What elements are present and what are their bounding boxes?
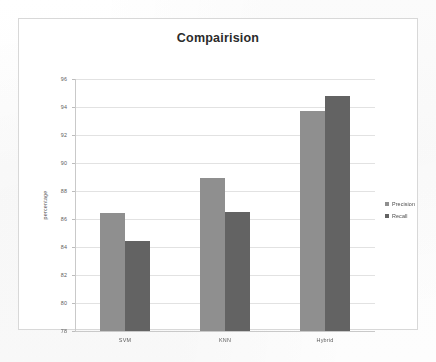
legend-swatch-icon (385, 214, 389, 218)
y-axis-line (75, 79, 76, 331)
y-axis-tick-label: 92 (41, 132, 67, 138)
y-axis-tick-label: 78 (41, 328, 67, 334)
y-axis-tick-label: 88 (41, 188, 67, 194)
y-axis-tick-label: 82 (41, 272, 67, 278)
y-axis-tick-mark (72, 247, 75, 248)
legend-swatch-icon (385, 202, 389, 206)
y-axis-tick-mark (72, 275, 75, 276)
legend-item-recall[interactable]: Recall (385, 213, 415, 219)
gridline (75, 79, 375, 80)
bar-svm-precision[interactable] (100, 213, 125, 331)
y-axis-tick-mark (72, 79, 75, 80)
y-axis-tick-mark (72, 163, 75, 164)
y-axis-tick-label: 96 (41, 76, 67, 82)
x-axis-tick-label: KNN (175, 337, 275, 343)
legend-item-precision[interactable]: Precision (385, 201, 415, 207)
y-axis-tick-label: 80 (41, 300, 67, 306)
x-axis-tick-label: SVM (75, 337, 175, 343)
y-axis-tick-label: 94 (41, 104, 67, 110)
y-axis-tick-mark (72, 107, 75, 108)
legend-label: Precision (392, 201, 415, 207)
bar-hybrid-precision[interactable] (300, 111, 325, 331)
chart-page: Compairision percentage PrecisionRecall … (0, 0, 436, 362)
y-axis-tick-mark (72, 331, 75, 332)
chart-title: Compairision (19, 31, 417, 45)
chart-legend: PrecisionRecall (385, 201, 415, 225)
bar-svm-recall[interactable] (125, 241, 150, 331)
x-axis-line (75, 331, 375, 332)
x-axis-tick-label: Hybrid (275, 337, 375, 343)
bar-hybrid-recall[interactable] (325, 96, 350, 331)
y-axis-tick-label: 86 (41, 216, 67, 222)
y-axis-tick-mark (72, 135, 75, 136)
bar-knn-precision[interactable] (200, 178, 225, 331)
plot-area (75, 79, 375, 331)
legend-label: Recall (392, 213, 408, 219)
y-axis-tick-mark (72, 303, 75, 304)
y-axis-tick-mark (72, 219, 75, 220)
chart-frame: Compairision percentage PrecisionRecall … (18, 18, 418, 330)
bar-knn-recall[interactable] (225, 212, 250, 331)
y-axis-tick-label: 84 (41, 244, 67, 250)
y-axis-tick-label: 90 (41, 160, 67, 166)
y-axis-tick-mark (72, 191, 75, 192)
